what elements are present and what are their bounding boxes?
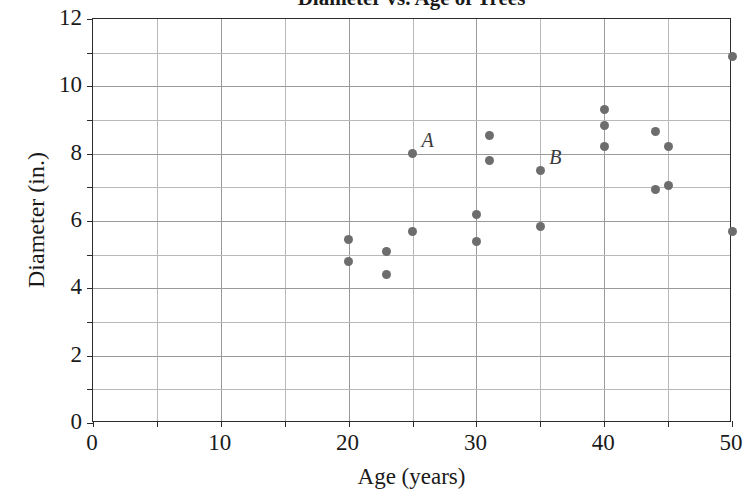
point-label-a: A: [422, 130, 434, 150]
data-point[interactable]: [408, 227, 417, 236]
data-point[interactable]: [728, 52, 737, 61]
chart-title: Diameter vs. Age of Trees: [92, 0, 731, 11]
data-point[interactable]: [536, 166, 545, 175]
data-point[interactable]: [344, 257, 353, 266]
data-point[interactable]: [472, 210, 481, 219]
data-point[interactable]: [664, 181, 673, 190]
x-tick-label: 0: [86, 430, 98, 456]
gridline-horizontal: [93, 86, 730, 87]
y-axis-tick: [87, 154, 93, 155]
data-point[interactable]: [600, 105, 609, 114]
gridline-horizontal: [93, 221, 730, 222]
gridline-vertical: [285, 19, 286, 421]
y-tick-label: 10: [59, 72, 82, 98]
data-point[interactable]: [651, 127, 660, 136]
data-point[interactable]: [664, 142, 673, 151]
gridline-vertical: [604, 19, 605, 421]
gridline-horizontal: [93, 356, 730, 357]
y-axis-tick: [87, 288, 93, 289]
y-axis-tick: [87, 120, 93, 121]
x-axis-tick: [157, 421, 158, 427]
data-point[interactable]: [651, 185, 660, 194]
y-tick-label: 4: [71, 274, 83, 300]
y-axis-tick: [87, 322, 93, 323]
y-axis-tick: [87, 423, 93, 424]
x-tick-label: 30: [464, 430, 487, 456]
x-axis-tick: [221, 421, 222, 427]
x-axis-tick: [476, 421, 477, 427]
gridline-vertical: [349, 19, 350, 421]
data-point[interactable]: [408, 149, 417, 158]
x-axis-tick: [732, 421, 733, 427]
data-point[interactable]: [344, 235, 353, 244]
x-axis-tick: [349, 421, 350, 427]
x-tick-label: 10: [208, 430, 231, 456]
x-axis-tick: [93, 421, 94, 427]
gridline-vertical: [668, 19, 669, 421]
gridline-vertical: [413, 19, 414, 421]
y-axis-tick: [87, 53, 93, 54]
data-point[interactable]: [728, 227, 737, 236]
y-tick-label: 2: [71, 342, 83, 368]
gridline-horizontal: [93, 389, 730, 390]
y-tick-label: 0: [71, 409, 83, 435]
data-point[interactable]: [472, 237, 481, 246]
y-axis-tick: [87, 187, 93, 188]
gridline-horizontal: [93, 187, 730, 188]
gridline-horizontal: [93, 53, 730, 54]
plot-area: AB: [92, 18, 731, 422]
gridline-horizontal: [93, 322, 730, 323]
x-axis-tick: [540, 421, 541, 427]
gridline-horizontal: [93, 255, 730, 256]
data-point[interactable]: [485, 156, 494, 165]
y-axis-tick: [87, 389, 93, 390]
scatter-plot-figure: Diameter vs. Age of Trees Diameter (in.)…: [0, 0, 750, 498]
gridline-vertical: [476, 19, 477, 421]
y-tick-label: 8: [71, 140, 83, 166]
x-axis-tick: [668, 421, 669, 427]
y-tick-label: 12: [59, 5, 82, 31]
x-axis-tick: [285, 421, 286, 427]
data-point[interactable]: [485, 131, 494, 140]
point-label-b: B: [549, 147, 561, 167]
y-axis-tick: [87, 19, 93, 20]
x-axis-tick: [604, 421, 605, 427]
y-axis-tick: [87, 221, 93, 222]
y-tick-label: 6: [71, 207, 83, 233]
x-tick-label: 40: [592, 430, 615, 456]
gridline-vertical: [540, 19, 541, 421]
data-point[interactable]: [600, 121, 609, 130]
data-point[interactable]: [600, 142, 609, 151]
x-tick-label: 20: [336, 430, 359, 456]
gridline-horizontal: [93, 120, 730, 121]
x-axis-title: Age (years): [92, 464, 731, 490]
y-axis-tick: [87, 86, 93, 87]
gridline-vertical: [221, 19, 222, 421]
y-axis-tick: [87, 356, 93, 357]
gridline-horizontal: [93, 288, 730, 289]
y-axis-title: Diameter (in.): [18, 18, 54, 422]
gridline-vertical: [157, 19, 158, 421]
x-tick-label: 50: [720, 430, 743, 456]
x-axis-tick: [413, 421, 414, 427]
data-point[interactable]: [536, 222, 545, 231]
y-axis-tick: [87, 255, 93, 256]
data-point[interactable]: [382, 270, 391, 279]
